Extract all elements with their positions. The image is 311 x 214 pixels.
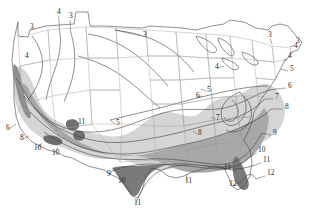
zone-label-11: 11: [78, 117, 85, 126]
zone-label-5: 5: [207, 85, 211, 94]
zone-label-11: 11: [224, 163, 231, 172]
zone-label-10: 10: [52, 148, 60, 157]
zone-label-leader-l11: [281, 69, 288, 71]
zone-label-7: 7: [216, 113, 220, 122]
zone-label-8: 8: [285, 102, 289, 111]
zone-label-9: 9: [273, 128, 277, 137]
zone-label-3: 3: [143, 30, 147, 39]
zone-label-10: 10: [258, 145, 266, 154]
zone-label-4: 4: [25, 51, 29, 60]
zone-label-10: 10: [118, 176, 126, 185]
zone-label-11: 11: [185, 176, 192, 185]
zone-label-6: 6: [196, 91, 200, 100]
zone-label-4: 4: [294, 41, 298, 50]
zone-label-3: 3: [69, 11, 73, 20]
zone-label-3: 3: [30, 22, 34, 31]
zone-label-4: 4: [57, 7, 61, 16]
zone-label-6: 6: [6, 123, 10, 132]
zone-label-12: 12: [229, 179, 237, 188]
zone-label-7: 7: [275, 92, 279, 101]
zone-label-5: 5: [290, 64, 294, 73]
zone-label-4: 4: [288, 51, 292, 60]
zone-label-leader-l31: [255, 163, 261, 165]
zone-label-11: 11: [263, 155, 270, 164]
zone-label-8: 8: [198, 128, 202, 137]
zone-label-leader-l14: [276, 88, 286, 89]
zone-label-10: 10: [34, 143, 42, 152]
zone-label-9: 9: [107, 169, 111, 178]
zone-label-leader-l22: [9, 124, 16, 129]
zone-label-4: 4: [215, 62, 219, 71]
zone-label-6: 6: [288, 81, 292, 90]
zone-label-8: 8: [20, 133, 24, 142]
zone-label-12: 12: [267, 168, 275, 177]
map-canvas: 3434333444556678758911681010910111110111…: [0, 0, 311, 214]
zone-label-leader-l23: [23, 136, 29, 139]
zone-label-3: 3: [268, 30, 272, 39]
zone-label-11: 11: [134, 198, 141, 207]
hardiness-zone-map: 3434333444556678758911681010910111110111…: [0, 0, 311, 214]
zone-label-leader-l33: [256, 176, 265, 179]
zone-label-5: 5: [116, 118, 120, 127]
